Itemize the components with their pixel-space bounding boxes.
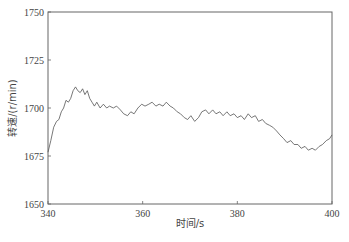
line-chart: 340360380400 16501675170017251750 时间/s 转… (0, 0, 349, 242)
y-tick-label: 1750 (24, 7, 44, 18)
x-tick-label: 360 (135, 208, 150, 219)
x-tick-label: 340 (41, 208, 56, 219)
y-tick-label: 1675 (24, 151, 44, 162)
x-axis-label: 时间/s (176, 217, 205, 229)
plot-frame (48, 12, 332, 204)
axis-ticks (48, 12, 332, 204)
y-axis-label: 转速/(r/min) (6, 79, 18, 137)
y-tick-label: 1650 (24, 199, 44, 210)
y-tick-labels: 16501675170017251750 (24, 7, 44, 210)
x-tick-label: 400 (325, 208, 340, 219)
y-tick-label: 1725 (24, 55, 44, 66)
y-tick-label: 1700 (24, 103, 44, 114)
x-tick-label: 380 (230, 208, 245, 219)
speed-series-line (48, 87, 332, 152)
